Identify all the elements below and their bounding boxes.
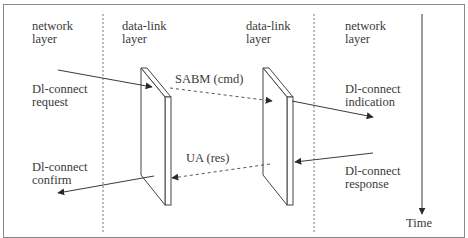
response-arrow [295,153,373,162]
primitive-request-label: Dl-connect request [32,83,88,109]
primitive-indication-label: Dl-connect indication [345,83,401,109]
sabm-frame-label: SABM (cmd) [175,73,243,86]
column-header-datalink-right: data-link layer [246,20,290,46]
ua-frame-arrow [172,164,270,178]
column-header-network-left: network layer [32,20,73,46]
left-layer-interface-plane [141,68,171,205]
ua-frame-label: UA (res) [186,152,229,165]
column-header-network-right: network layer [345,20,386,46]
right-layer-interface-plane [263,68,293,205]
sabm-frame-arrow [170,88,272,101]
time-axis-label: Time [406,217,432,230]
column-header-datalink-left: data-link layer [122,20,166,46]
primitive-response-label: Dl-connect response [345,165,401,191]
primitive-confirm-label: Dl-connect confirm [32,161,88,187]
